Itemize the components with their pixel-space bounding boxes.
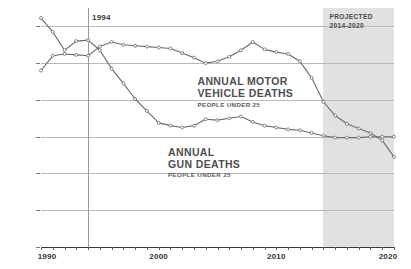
x-axis-tick-2008 bbox=[253, 247, 254, 250]
motor-label-line2: VEHICLE DEATHS bbox=[197, 88, 293, 100]
x-axis-label-2010: 2010 bbox=[267, 252, 286, 261]
x-axis-tick-1995 bbox=[100, 247, 101, 250]
x-axis-label-1990: 1990 bbox=[38, 252, 57, 261]
series-lines-group bbox=[41, 8, 394, 247]
y-axis-tick-12000 bbox=[36, 26, 40, 27]
y-axis-tick-0 bbox=[36, 247, 40, 248]
x-axis-tick-1994 bbox=[88, 247, 89, 250]
data-point bbox=[145, 45, 148, 48]
data-point bbox=[122, 43, 125, 46]
x-axis-tick-2005 bbox=[218, 247, 219, 250]
year-marker-label: 1994 bbox=[92, 13, 111, 22]
series-label-motor-vehicle-deaths: ANNUAL MOTOR VEHICLE DEATHS PEOPLE UNDER… bbox=[197, 76, 293, 108]
chart-container: 02,0004,0006,0008,00010,00012,000 199020… bbox=[0, 0, 411, 269]
y-axis-tick-6000 bbox=[36, 137, 40, 138]
motor-label-sublabel: PEOPLE UNDER 25 bbox=[197, 101, 293, 108]
data-point bbox=[87, 39, 90, 42]
data-point bbox=[228, 55, 231, 58]
x-axis-tick-2020 bbox=[394, 247, 395, 250]
x-axis-tick-2010 bbox=[276, 247, 277, 250]
data-point bbox=[98, 49, 101, 52]
gun-label-sublabel: PEOPLE UNDER 25 bbox=[168, 171, 240, 178]
data-point bbox=[134, 44, 137, 47]
data-point bbox=[287, 128, 290, 131]
data-point bbox=[63, 52, 66, 55]
data-point bbox=[51, 54, 54, 57]
data-point bbox=[357, 127, 360, 130]
x-axis-tick-2015 bbox=[335, 247, 336, 250]
x-axis-tick-2009 bbox=[265, 247, 266, 250]
data-point bbox=[275, 126, 278, 129]
data-point bbox=[51, 30, 54, 33]
projected-badge-line1: PROJECTED bbox=[329, 13, 372, 20]
gun-label-line2: GUN DEATHS bbox=[168, 159, 240, 171]
projected-badge: PROJECTED 2014-2020 bbox=[329, 13, 372, 31]
x-axis-tick-2006 bbox=[229, 247, 230, 250]
data-point bbox=[275, 51, 278, 54]
data-point bbox=[204, 62, 207, 65]
data-point bbox=[251, 41, 254, 44]
x-axis-tick-2018 bbox=[370, 247, 371, 250]
projected-badge-line2: 2014-2020 bbox=[329, 22, 364, 29]
data-point bbox=[169, 47, 172, 50]
x-axis-tick-1992 bbox=[65, 247, 66, 250]
data-point bbox=[263, 48, 266, 51]
x-axis-tick-1990 bbox=[41, 247, 42, 250]
x-axis-tick-1996 bbox=[112, 247, 113, 250]
data-point bbox=[157, 46, 160, 49]
series-label-gun-deaths: ANNUAL GUN DEATHS PEOPLE UNDER 25 bbox=[168, 147, 240, 179]
data-point bbox=[393, 135, 396, 138]
data-point bbox=[98, 45, 101, 48]
data-point bbox=[322, 134, 325, 137]
data-point bbox=[393, 155, 396, 158]
x-axis-tick-2016 bbox=[347, 247, 348, 250]
data-point bbox=[369, 135, 372, 138]
x-axis-tick-1999 bbox=[147, 247, 148, 250]
data-point bbox=[110, 41, 113, 44]
y-axis-tick-10000 bbox=[36, 63, 40, 64]
x-axis-tick-2012 bbox=[300, 247, 301, 250]
x-axis-tick-2011 bbox=[288, 247, 289, 250]
data-point bbox=[298, 60, 301, 63]
data-point bbox=[75, 53, 78, 56]
x-axis-tick-2014 bbox=[323, 247, 324, 250]
data-point bbox=[345, 122, 348, 125]
data-point bbox=[75, 40, 78, 43]
data-point bbox=[322, 100, 325, 103]
data-point bbox=[181, 126, 184, 129]
data-point bbox=[298, 129, 301, 132]
data-point bbox=[240, 115, 243, 118]
x-axis-tick-2004 bbox=[206, 247, 207, 250]
data-point bbox=[334, 114, 337, 117]
data-point bbox=[287, 52, 290, 55]
data-point bbox=[310, 76, 313, 79]
data-point bbox=[381, 135, 384, 138]
data-point bbox=[169, 124, 172, 127]
data-point bbox=[63, 49, 66, 52]
y-axis-tick-4000 bbox=[36, 173, 40, 174]
motor-label-line1: ANNUAL MOTOR bbox=[197, 76, 293, 88]
data-point bbox=[87, 54, 90, 57]
data-point bbox=[204, 118, 207, 121]
data-point bbox=[216, 119, 219, 122]
data-point bbox=[216, 60, 219, 63]
x-axis-tick-1993 bbox=[76, 247, 77, 250]
data-point bbox=[40, 17, 43, 20]
data-point bbox=[192, 56, 195, 59]
data-point bbox=[357, 136, 360, 139]
data-point bbox=[369, 132, 372, 135]
data-point bbox=[122, 82, 125, 85]
data-point bbox=[157, 121, 160, 124]
data-point bbox=[381, 139, 384, 142]
x-axis-tick-2013 bbox=[312, 247, 313, 250]
y-axis-tick-8000 bbox=[36, 100, 40, 101]
data-point bbox=[345, 136, 348, 139]
data-point bbox=[134, 98, 137, 101]
data-point bbox=[228, 117, 231, 120]
data-point bbox=[110, 67, 113, 70]
x-axis-tick-2003 bbox=[194, 247, 195, 250]
plot-area bbox=[41, 8, 394, 247]
gun-label-line1: ANNUAL bbox=[168, 147, 240, 159]
x-axis-tick-2019 bbox=[382, 247, 383, 250]
y-axis-tick-2000 bbox=[36, 210, 40, 211]
